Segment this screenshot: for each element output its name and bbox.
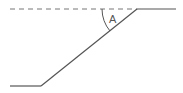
slope-diagram: A: [0, 0, 183, 93]
angle-label: A: [109, 13, 117, 25]
slope-line: [41, 9, 137, 86]
